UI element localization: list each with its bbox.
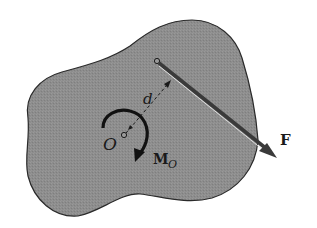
label-distance-d: d <box>143 90 153 108</box>
force-application-point <box>154 58 159 63</box>
point-o <box>121 132 126 137</box>
label-force-f: F <box>280 131 291 149</box>
label-moment-subscript: O <box>168 158 177 171</box>
moment-diagram: O d M O F <box>0 0 317 228</box>
label-point-o: O <box>103 134 117 154</box>
label-moment-m: M <box>153 151 169 167</box>
